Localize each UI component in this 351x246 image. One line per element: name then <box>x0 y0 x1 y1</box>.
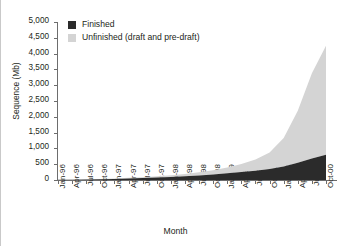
y-axis-tick-label: 1,000 <box>29 142 50 151</box>
y-axis-tick-mark <box>54 101 57 102</box>
y-axis-tick-label: 3,000 <box>29 79 50 88</box>
plot-area <box>58 22 336 180</box>
y-axis-tick-label: 500 <box>35 158 49 167</box>
y-axis-tick-mark <box>54 148 57 149</box>
y-axis-tick-mark <box>54 85 57 86</box>
y-axis-tick-mark <box>54 180 57 181</box>
y-axis-tick-mark <box>54 22 57 23</box>
y-axis-tick-label: 0 <box>44 174 49 183</box>
y-axis-tick-mark <box>54 54 57 55</box>
legend-swatch-finished <box>68 21 76 29</box>
y-axis-tick-mark <box>54 133 57 134</box>
y-axis-tick-label: 4,000 <box>29 48 50 57</box>
legend-entry: Finished <box>68 20 200 29</box>
legend-label: Unfinished (draft and pre-draft) <box>82 33 200 42</box>
legend-label: Finished <box>82 20 114 29</box>
y-axis-tick-mark <box>54 117 57 118</box>
series-layer <box>58 22 336 180</box>
y-axis-tick-mark <box>54 38 57 39</box>
y-axis-tick-label: 2,000 <box>29 111 50 120</box>
legend-entry: Unfinished (draft and pre-draft) <box>68 33 200 42</box>
x-axis-title: Month <box>0 226 351 236</box>
y-axis-tick-label: 4,500 <box>29 32 50 41</box>
y-axis-tick-label: 3,500 <box>29 63 50 72</box>
x-axis-line <box>57 180 337 181</box>
y-axis-tick-label: 5,000 <box>29 16 50 25</box>
y-axis-tick-mark <box>54 69 57 70</box>
y-axis-tick-label: 1,500 <box>29 127 50 136</box>
y-axis-tick-label: 2,500 <box>29 95 50 104</box>
legend-swatch-unfinished <box>68 34 76 42</box>
area-unfinished <box>58 46 326 180</box>
chart-legend: FinishedUnfinished (draft and pre-draft) <box>68 20 200 42</box>
y-axis-tick-mark <box>54 164 57 165</box>
y-axis-title: Sequence (Mb) <box>11 26 21 156</box>
